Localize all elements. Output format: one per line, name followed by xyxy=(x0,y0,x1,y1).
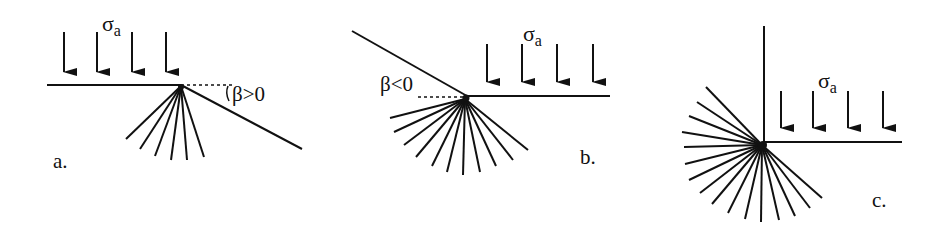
slip-line-fan-diagram: σa β>0 a. σa β<0 b. xyxy=(0,0,946,231)
panel-label-b: b. xyxy=(580,145,596,169)
panel-b xyxy=(352,31,610,175)
slip-fan xyxy=(126,86,204,160)
panel-label-c: c. xyxy=(872,188,887,212)
load-arrows xyxy=(487,44,593,82)
stress-label-a: σa xyxy=(102,11,121,39)
stress-label-c: σa xyxy=(818,68,837,96)
panel-label-a: a. xyxy=(53,149,68,173)
slip-fan xyxy=(390,99,528,175)
angle-arc xyxy=(227,86,229,101)
slip-fan xyxy=(682,87,822,222)
panel-c xyxy=(682,26,902,222)
load-arrows xyxy=(781,91,883,128)
angle-label-a: β>0 xyxy=(232,82,265,106)
stress-label-b: σa xyxy=(523,21,542,49)
angle-label-b: β<0 xyxy=(380,72,413,96)
